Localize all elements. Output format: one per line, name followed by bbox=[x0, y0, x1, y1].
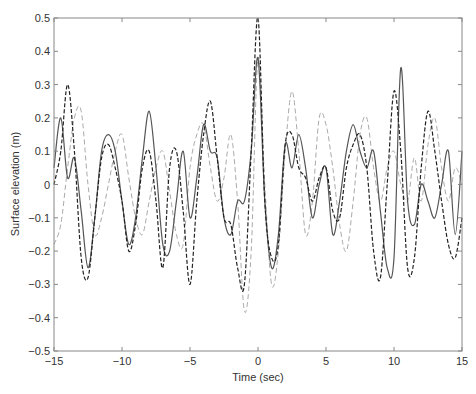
y-tick-label: 0.4 bbox=[35, 45, 50, 57]
line-chart: −15−10−5051015 −0.5−0.4−0.3−0.2−0.100.10… bbox=[0, 0, 476, 394]
y-tick-label: −0.2 bbox=[28, 245, 50, 257]
y-tick-label: 0.1 bbox=[35, 145, 50, 157]
x-tick-label: 5 bbox=[323, 355, 329, 367]
x-tick-label: 15 bbox=[456, 355, 468, 367]
y-tick-label: 0.3 bbox=[35, 79, 50, 91]
x-tick-label: 0 bbox=[255, 355, 261, 367]
x-tick-label: 10 bbox=[388, 355, 400, 367]
y-tick-label: 0 bbox=[44, 179, 50, 191]
y-axis-label: Surface elevation (m) bbox=[9, 132, 21, 237]
y-tick-label: 0.5 bbox=[35, 12, 50, 24]
y-tick-label: −0.1 bbox=[28, 212, 50, 224]
y-tick-label: −0.5 bbox=[28, 345, 50, 357]
y-tick-label: 0.2 bbox=[35, 112, 50, 124]
x-axis-label: Time (sec) bbox=[232, 371, 284, 383]
x-tick-label: −10 bbox=[113, 355, 132, 367]
y-tick-label: −0.3 bbox=[28, 278, 50, 290]
x-tick-label: −5 bbox=[184, 355, 197, 367]
y-tick-label: −0.4 bbox=[28, 312, 50, 324]
